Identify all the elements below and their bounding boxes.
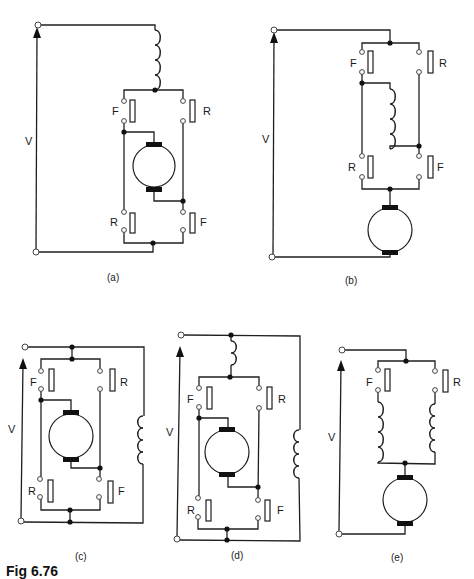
panel-b: V F R R F (b) [262,27,447,286]
contact-label-f: F [437,161,444,173]
armature-icon [49,414,93,458]
panel-label: (a) [107,272,119,283]
brush-icon [397,475,413,480]
panel-c: V F R R F (c) [8,344,144,562]
contact-label-r: R [28,485,36,497]
shunt-field-coil-icon [294,430,299,478]
figure-caption: Fig 6.76 [6,563,58,579]
panel-d: V F R R F (d) [166,332,300,561]
contact-r-bottom [130,213,135,233]
contact-label-r: R [439,57,447,69]
contact-f-top [368,51,373,73]
voltage-label: V [8,423,16,435]
voltage-arrow-head-icon [19,358,27,369]
contact-label-f: F [187,393,194,405]
supply-terminal-positive [178,332,184,338]
contact-f [385,369,390,391]
voltage-arrow-line [36,30,37,250]
brush-icon [219,427,235,432]
contact-label-f: F [118,485,125,497]
contact-f-bottom [265,500,270,521]
contact-r-top [110,369,115,391]
supply-terminal-positive [339,347,345,353]
series-field-coil-icon [231,341,236,365]
reverse-field-coil-icon [430,404,435,452]
armature-icon [133,145,175,187]
contact-label-r: R [453,376,461,388]
brush-icon [382,205,398,210]
contact-f-bottom [190,213,195,233]
forward-field-coil-icon [378,402,383,462]
brush-icon [397,521,413,526]
voltage-arrow-head-icon [337,360,345,371]
contact-label-r: R [348,161,356,173]
supply-terminal-negative [33,249,39,255]
contact-label-r: R [203,105,211,117]
brush-icon [63,457,79,462]
contact-r-bottom [368,156,373,178]
contact-f-top [49,369,54,391]
contact-r-bottom [48,480,53,502]
contact-label-r: R [110,216,118,228]
armature-icon [368,208,412,252]
voltage-arrow-head-icon [270,32,278,43]
contact-label-r: R [120,376,128,388]
contact-label-f: F [277,504,284,516]
panel-label: (c) [75,551,87,562]
supply-terminal-negative [18,518,24,524]
supply-terminal-negative [269,254,275,260]
voltage-label: V [262,133,270,145]
contact-label-r: R [278,393,286,405]
contact-label-f: F [112,105,119,117]
brush-icon [146,187,162,192]
contact-r-top [428,51,433,73]
contact-label-f: F [366,376,373,388]
contact-f-bottom [428,156,433,178]
contact-label-r: R [187,504,195,516]
contact-f-top [130,100,135,122]
voltage-arrow-head-icon [33,27,41,38]
shunt-field-coil-icon [138,416,143,464]
brush-icon [382,250,398,255]
armature-icon [383,478,427,522]
field-coil-icon [390,89,395,149]
series-field-coil-icon [155,30,160,90]
panel-label: (b) [345,275,357,286]
voltage-arrow-head-icon [176,346,184,357]
panel-a: V F R R F [25,22,211,283]
brush-icon [146,142,162,147]
contact-r-top [267,387,272,409]
contact-label-f: F [200,216,207,228]
contact-label-f: F [350,57,357,69]
voltage-label: V [166,426,174,438]
brush-icon [219,472,235,477]
supply-terminal-negative [174,536,180,542]
supply-terminal-positive [35,22,41,28]
brush-icon [63,410,79,415]
contact-label-f: F [30,376,37,388]
contact-r-top [190,100,195,122]
contact-r [443,370,448,392]
voltage-label: V [328,431,336,443]
contact-f-bottom [108,481,113,503]
panel-label: (d) [231,550,243,561]
supply-terminal-negative [336,531,342,537]
armature-icon [205,430,249,474]
contact-r-bottom [206,500,211,521]
panel-label: (e) [391,552,403,563]
voltage-label: V [25,135,33,147]
contact-f-top [207,387,212,409]
panel-e: V F R (e) [328,347,461,563]
supply-terminal-positive [22,344,28,350]
supply-terminal-positive [271,27,277,33]
